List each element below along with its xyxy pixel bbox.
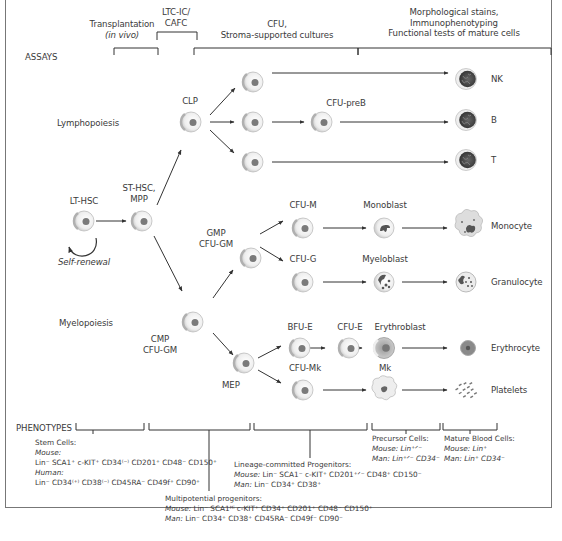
- label-cmp-line2: CFU-GM: [143, 345, 177, 356]
- precursor-title: Precursor Cells:: [372, 434, 440, 444]
- multipotent-title: Multipotential progenitors:: [165, 494, 373, 504]
- assay-ltc-ic-line1: LTC-IC/: [162, 7, 190, 18]
- myelopoiesis-label: Myelopoiesis: [59, 318, 113, 329]
- lineage-committed-man-markers: Lin⁻ CD34⁺ CD38⁺: [254, 480, 321, 489]
- assay-ltc-ic-line2: CAFC: [162, 18, 190, 29]
- cell-st-hsc: [132, 211, 152, 231]
- assay-cfu-line2: Stroma-supported cultures: [221, 30, 334, 41]
- phenotype-precursor: Precursor Cells: Mouse: Lin⁺ᐟ⁻ Man: Lin⁺…: [372, 434, 440, 464]
- assay-morphology-line3: Functional tests of mature cells: [388, 28, 520, 39]
- label-myeloblast: Myeloblast: [362, 254, 407, 265]
- cell-nk: [456, 69, 477, 90]
- label-platelets: Platelets: [491, 385, 527, 396]
- cell-lt-hsc: [74, 211, 94, 231]
- cell-b: [456, 110, 477, 131]
- cell-gmp: [241, 248, 261, 268]
- cell-cfu-mk: [293, 380, 313, 400]
- label-self-renewal: Self-renewal: [58, 257, 110, 268]
- cell-cfu-e: [339, 338, 359, 358]
- cell-erythrocyte: [461, 341, 476, 356]
- assay-cfu: CFU, Stroma-supported cultures: [221, 19, 334, 40]
- assay-transplantation-line2: (in vivo): [90, 30, 155, 41]
- precursor-mouse-markers: Lin⁺ᐟ⁻: [400, 444, 422, 453]
- label-clp: CLP: [182, 96, 198, 107]
- label-cfu-m: CFU-M: [289, 200, 316, 211]
- label-nk: NK: [491, 74, 503, 85]
- label-cfu-preb: CFU-preB: [326, 98, 366, 109]
- stem-cells-mouse-markers: Lin⁻ SCA1⁺ c-KIT⁺ CD34⁽⁻⁾ CD201⁺ CD48⁻ C…: [35, 458, 217, 468]
- assay-morphology-line1: Morphological stains,: [388, 7, 520, 18]
- phenotype-multipotent: Multipotential progenitors: Mouse: Lin⁻ …: [165, 494, 373, 524]
- cell-clp: [181, 112, 201, 132]
- mature-title: Mature Blood Cells:: [444, 434, 515, 444]
- assay-transplantation: Transplantation (in vivo): [90, 19, 155, 40]
- label-mep: MEP: [222, 380, 240, 391]
- cell-lymph-1: [243, 72, 263, 92]
- lineage-committed-mouse-label: Mouse:: [234, 470, 260, 479]
- precursor-mouse-label: Mouse:: [372, 444, 398, 453]
- multipotent-man-label: Man:: [165, 514, 183, 523]
- cell-cmp: [183, 312, 203, 332]
- label-mpp: MPP: [123, 194, 156, 205]
- multipotent-man-markers: Lin⁻ CD34⁺ CD38⁺ CD45RA⁻ CD49f⁻ CD90⁻: [185, 514, 343, 523]
- cell-cfu-preb: [312, 112, 332, 132]
- cell-mk: [372, 376, 397, 400]
- label-st-hsc-line1: ST-HSC,: [123, 183, 156, 194]
- cell-myeloblast: [374, 272, 394, 292]
- label-cfu-g: CFU-G: [290, 254, 317, 265]
- stem-cells-mouse-label: Mouse:: [35, 448, 61, 457]
- cell-platelets: [455, 382, 477, 398]
- label-gmp-line1: GMP: [199, 228, 233, 239]
- cell-cfu-g: [293, 272, 313, 292]
- lineage-committed-mouse-markers: Lin⁻ SCA1⁻ c-KIT⁺ CD201⁺ᐟ⁻ CD48⁺ CD150⁻: [262, 470, 421, 479]
- cell-mep: [234, 353, 254, 373]
- phenotype-lineage-committed: Lineage-committed Progenitors: Mouse: Li…: [234, 460, 422, 490]
- label-granulocyte: Granulocyte: [491, 277, 542, 288]
- label-cfu-mk: CFU-Mk: [289, 363, 321, 374]
- label-mk: Mk: [379, 363, 391, 374]
- label-cfu-e: CFU-E: [337, 322, 362, 333]
- mature-man-markers: Lin⁺ CD34⁻: [464, 454, 505, 463]
- mature-mouse-markers: Lin⁺: [472, 444, 487, 453]
- label-bfu-e: BFU-E: [287, 322, 312, 333]
- assays-label: ASSAYS: [25, 52, 57, 63]
- label-cmp-line1: CMP: [143, 334, 177, 345]
- multipotent-mouse-markers: Lin⁻ SCA1ᴴⁱ c-KIT⁺ CD34⁺ CD201⁺ CD48⁻ CD…: [193, 504, 372, 513]
- lymphopoiesis-label: Lymphopoiesis: [57, 118, 119, 129]
- cell-monoblast: [374, 218, 394, 238]
- label-monocyte: Monocyte: [491, 221, 532, 232]
- mature-man-label: Man:: [444, 454, 462, 463]
- label-b: B: [491, 115, 497, 126]
- label-gmp-line2: CFU-GM: [199, 239, 233, 250]
- assay-morphology: Morphological stains, Immunophenotyping …: [388, 7, 520, 39]
- assay-ltc-ic: LTC-IC/ CAFC: [162, 7, 190, 28]
- cell-monocyte: [455, 209, 483, 236]
- stem-cells-human-markers: Lin⁻ CD34⁽⁺⁾ CD38⁽⁻⁾ CD45RA⁻ CD49f⁺ CD90…: [35, 478, 217, 488]
- assay-cfu-line1: CFU,: [221, 19, 334, 30]
- label-monoblast: Monoblast: [363, 200, 406, 211]
- mature-mouse-label: Mouse:: [444, 444, 470, 453]
- cell-lymph-2: [243, 112, 263, 132]
- phenotype-stem-cells: Stem Cells: Mouse: Lin⁻ SCA1⁺ c-KIT⁺ CD3…: [35, 438, 217, 488]
- label-t: T: [491, 155, 496, 166]
- stem-cells-title: Stem Cells:: [35, 438, 217, 448]
- label-erythroblast: Erythroblast: [374, 322, 425, 333]
- label-st-hsc: ST-HSC, MPP: [123, 183, 156, 204]
- phenotype-mature: Mature Blood Cells: Mouse: Lin⁺ Man: Lin…: [444, 434, 515, 464]
- label-lt-hsc: LT-HSC: [70, 196, 98, 207]
- cell-t: [456, 150, 477, 171]
- stem-cells-human-label: Human:: [35, 468, 64, 477]
- label-erythrocyte: Erythrocyte: [491, 343, 540, 354]
- cell-bfu-e: [290, 338, 310, 358]
- label-cmp: CMP CFU-GM: [143, 334, 177, 355]
- precursor-man-label: Man:: [372, 454, 390, 463]
- precursor-man-markers: Lin⁺ᐟ⁻ CD34⁻: [392, 454, 440, 463]
- self-renewal-arrow: [69, 238, 96, 256]
- assay-morphology-line2: Immunophenotyping: [388, 18, 520, 29]
- multipotent-mouse-label: Mouse:: [165, 504, 191, 513]
- assay-transplantation-line1: Transplantation: [90, 19, 155, 30]
- phenotypes-label: PHENOTYPES: [16, 423, 72, 434]
- cell-lymph-3: [243, 152, 263, 172]
- lineage-committed-man-label: Man:: [234, 480, 252, 489]
- label-gmp: GMP CFU-GM: [199, 228, 233, 249]
